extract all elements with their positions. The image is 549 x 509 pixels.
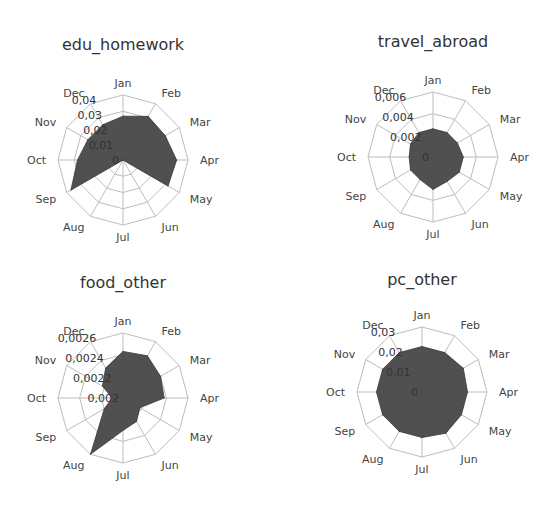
data-point-feb — [148, 116, 149, 117]
chart-title: travel_abroad — [378, 32, 488, 52]
radar-chart-pc-other: pc_otherJanFebMarAprMayJunJulAugSepOctNo… — [285, 255, 549, 505]
tick-label: 0,02 — [83, 124, 108, 137]
data-point-dec — [105, 367, 106, 368]
category-label: Feb — [461, 319, 480, 332]
data-point-jun — [447, 181, 448, 182]
tick-label: 0,04 — [72, 94, 97, 107]
category-label: Jul — [425, 228, 439, 241]
chart-panel-food-other: food_otherJanFebMarAprMayJunJulAugSepOct… — [0, 255, 270, 505]
category-label: Apr — [499, 386, 519, 399]
category-label: Sep — [346, 190, 367, 203]
tick-label: 0,006 — [375, 91, 407, 104]
data-point-sep — [382, 414, 383, 415]
data-point-aug — [90, 454, 91, 455]
data-point-sep — [104, 408, 105, 409]
data-point-apr — [164, 398, 165, 399]
category-label: Oct — [27, 392, 47, 405]
data-point-oct — [376, 392, 377, 393]
category-label: Sep — [36, 193, 57, 206]
data-point-may — [139, 407, 140, 408]
category-label: Sep — [335, 425, 356, 438]
category-label: Aug — [362, 453, 383, 466]
data-point-feb — [447, 132, 448, 133]
category-label: Jul — [414, 463, 428, 476]
category-label: May — [500, 190, 523, 203]
tick-label: 0 — [422, 151, 429, 164]
data-point-mar — [160, 376, 161, 377]
data-point-nov — [382, 369, 383, 370]
data-point-jul — [422, 437, 423, 438]
data-area — [377, 347, 468, 438]
category-label: Aug — [63, 459, 84, 472]
data-point-aug — [399, 431, 400, 432]
data-point-may — [461, 414, 462, 415]
tick-label: 0,0026 — [58, 332, 97, 345]
data-point-mar — [463, 368, 464, 369]
chart-title: edu_homework — [62, 35, 185, 55]
data-point-mar — [165, 135, 166, 136]
chart-panel-pc-other: pc_otherJanFebMarAprMayJunJulAugSepOctNo… — [285, 255, 549, 505]
category-label: Nov — [35, 354, 57, 367]
category-label: Jun — [460, 453, 478, 466]
tick-label: 0,03 — [371, 326, 396, 339]
data-point-may — [459, 172, 460, 173]
tick-label: 0,0022 — [73, 372, 112, 385]
category-label: Mar — [190, 354, 211, 367]
category-label: Nov — [345, 113, 367, 126]
radar-chart-travel-abroad: travel_abroadJanFebMarAprMayJunJulAugSep… — [285, 0, 549, 250]
data-point-apr — [463, 157, 464, 158]
category-label: Jun — [161, 221, 179, 234]
chart-panel-travel-abroad: travel_abroadJanFebMarAprMayJunJulAugSep… — [285, 0, 549, 250]
category-label: Jun — [161, 459, 179, 472]
category-label: Jan — [413, 309, 431, 322]
data-point-jul — [123, 430, 124, 431]
category-label: Feb — [162, 87, 181, 100]
chart-title: pc_other — [387, 270, 457, 290]
category-label: Apr — [200, 154, 220, 167]
tick-label: 0,0024 — [65, 352, 104, 365]
tick-label: 0 — [411, 386, 418, 399]
category-label: May — [190, 193, 213, 206]
category-label: Oct — [326, 386, 346, 399]
chart-panel-edu-homework: edu_homeworkJanFebMarAprMayJunJulAugSepO… — [0, 0, 270, 250]
tick-label: 0,004 — [382, 111, 414, 124]
category-label: Mar — [190, 116, 211, 129]
data-point-nov — [102, 386, 103, 387]
data-point-sep — [410, 170, 411, 171]
category-label: Feb — [472, 84, 491, 97]
data-point-jan — [422, 346, 423, 347]
category-label: May — [190, 431, 213, 444]
data-point-jun — [445, 433, 446, 434]
radar-chart-food-other: food_otherJanFebMarAprMayJunJulAugSepOct… — [0, 255, 270, 505]
category-label: Sep — [36, 431, 57, 444]
data-point-jan — [123, 351, 124, 352]
data-point-sep — [70, 190, 71, 191]
category-label: Jun — [471, 218, 489, 231]
data-point-mar — [457, 142, 458, 143]
data-point-jan — [433, 128, 434, 129]
data-point-feb — [147, 355, 148, 356]
tick-label: 0,01 — [386, 366, 411, 379]
category-label: Nov — [334, 348, 356, 361]
category-label: Jan — [424, 74, 442, 87]
data-point-apr — [467, 392, 468, 393]
tick-label: 0,03 — [77, 109, 102, 122]
data-point-oct — [409, 157, 410, 158]
category-label: Feb — [162, 325, 181, 338]
category-label: Jan — [114, 77, 132, 90]
tick-label: 0,01 — [89, 139, 114, 152]
tick-label: 0 — [112, 154, 119, 167]
category-label: Aug — [63, 221, 84, 234]
data-point-oct — [77, 160, 78, 161]
data-point-jan — [123, 116, 124, 117]
tick-label: 0,002 — [88, 392, 120, 405]
category-label: Oct — [27, 154, 47, 167]
category-label: Apr — [510, 151, 530, 164]
chart-title: food_other — [80, 273, 166, 293]
category-label: Oct — [337, 151, 357, 164]
category-label: Aug — [373, 218, 394, 231]
data-point-may — [168, 186, 169, 187]
data-point-apr — [176, 160, 177, 161]
category-label: Jan — [114, 315, 132, 328]
data-point-jun — [136, 421, 137, 422]
